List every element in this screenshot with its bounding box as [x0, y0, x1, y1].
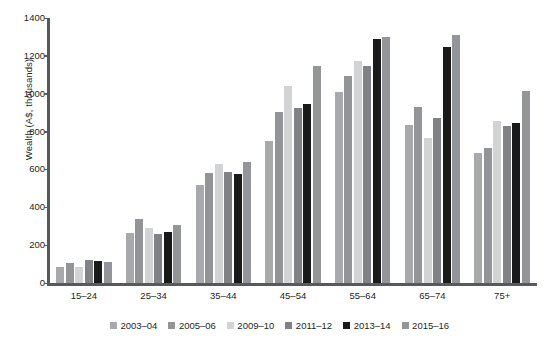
bar-group [467, 18, 537, 283]
y-tick-mark [44, 169, 48, 171]
y-tick-mark [44, 283, 48, 285]
plot-area: 0200400600800100012001400 [49, 18, 537, 283]
bar [522, 91, 530, 283]
legend-label: 2005–06 [179, 320, 216, 331]
legend-label: 2011–12 [296, 320, 332, 331]
legend-label: 2013–14 [354, 320, 391, 331]
x-tick-label: 45–54 [258, 290, 328, 301]
y-tick-mark [44, 93, 48, 95]
legend-item[interactable]: 2015–16 [402, 320, 449, 331]
bar [265, 141, 273, 283]
bar [94, 261, 102, 283]
y-tick-label: 1200 [3, 51, 45, 61]
bar [382, 37, 390, 283]
legend-swatch-icon [285, 322, 292, 329]
bar [284, 86, 292, 283]
y-tick-label: 1400 [3, 13, 45, 23]
bar [135, 219, 143, 283]
chart-legend: 2003–042005–062009–102011–122013–142015–… [0, 320, 559, 331]
bar-group [188, 18, 258, 283]
bar [405, 125, 413, 283]
bar [85, 260, 93, 283]
bar [215, 164, 223, 283]
legend-item[interactable]: 2009–10 [227, 320, 274, 331]
bar-groups [49, 18, 537, 283]
x-axis-category-labels: 15–2425–3435–4445–5455–6465–7475+ [49, 290, 537, 301]
bar [224, 172, 232, 283]
wealth-by-age-bar-chart: Wealth (A$, thousands) 02004006008001000… [0, 0, 559, 350]
bar [313, 66, 321, 283]
legend-item[interactable]: 2003–04 [110, 320, 157, 331]
bar [443, 47, 451, 283]
bar [164, 232, 172, 283]
bar [66, 263, 74, 283]
x-tick-label: 15–24 [49, 290, 119, 301]
legend-item[interactable]: 2011–12 [285, 320, 332, 331]
bar [452, 35, 460, 283]
y-tick-mark [44, 18, 48, 20]
legend-swatch-icon [227, 322, 234, 329]
x-tick-label: 75+ [467, 290, 537, 301]
bar [433, 118, 441, 283]
bar [243, 162, 251, 283]
y-tick-label: 1000 [3, 89, 45, 99]
bar [344, 76, 352, 283]
bar [363, 66, 371, 283]
bar [154, 234, 162, 283]
bar [373, 39, 381, 283]
bar [56, 267, 64, 283]
bar-group [328, 18, 398, 283]
bar [145, 228, 153, 283]
bar [474, 153, 482, 283]
bar [335, 92, 343, 283]
x-tick-label: 65–74 [398, 290, 468, 301]
y-tick-label: 400 [3, 202, 45, 212]
legend-swatch-icon [402, 322, 409, 329]
bar [424, 138, 432, 283]
x-tick-label: 55–64 [328, 290, 398, 301]
legend-swatch-icon [343, 322, 350, 329]
bar [126, 233, 134, 283]
bar [493, 121, 501, 283]
y-tick-mark [44, 131, 48, 133]
bar [205, 173, 213, 283]
x-tick-label: 35–44 [188, 290, 258, 301]
bar-group [258, 18, 328, 283]
legend-item[interactable]: 2005–06 [168, 320, 215, 331]
legend-swatch-icon [168, 322, 175, 329]
legend-label: 2003–04 [120, 320, 157, 331]
y-tick-label: 800 [3, 127, 45, 137]
bar-group [398, 18, 468, 283]
y-tick-label: 0 [3, 278, 45, 288]
bar [234, 174, 242, 283]
bar-group [119, 18, 189, 283]
legend-label: 2009–10 [237, 320, 274, 331]
bar [354, 61, 362, 283]
bar [294, 108, 302, 283]
x-axis-line [47, 283, 537, 286]
bar [414, 107, 422, 283]
bar [173, 225, 181, 283]
y-tick-mark [44, 55, 48, 57]
y-tick-mark [44, 207, 48, 209]
legend-label: 2015–16 [412, 320, 449, 331]
bar [484, 148, 492, 283]
y-tick-label: 200 [3, 240, 45, 250]
bar [275, 112, 283, 283]
legend-item[interactable]: 2013–14 [343, 320, 390, 331]
bar [75, 267, 83, 283]
bar [303, 104, 311, 283]
x-tick-label: 25–34 [119, 290, 189, 301]
bar [503, 126, 511, 283]
legend-swatch-icon [110, 322, 117, 329]
y-tick-label: 600 [3, 164, 45, 174]
bar [512, 123, 520, 283]
bar [104, 262, 112, 283]
bar [196, 185, 204, 283]
y-tick-mark [44, 245, 48, 247]
bar-group [49, 18, 119, 283]
